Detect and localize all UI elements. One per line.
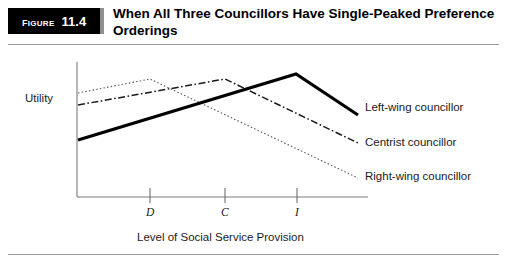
x-tick-label-i: I	[295, 206, 299, 218]
x-axis-label: Level of Social Service Provision	[137, 231, 304, 243]
y-axis-label: Utility	[25, 92, 53, 104]
chart-plot-area: Utility Level of Social Service Provisio…	[0, 0, 507, 265]
legend-label-right-wing: Right-wing councillor	[365, 170, 471, 182]
series-left-wing-councillor	[78, 74, 358, 140]
footer-divider	[8, 254, 499, 255]
figure-container: Figure 11.4 When All Three Councillors H…	[0, 0, 507, 265]
x-tick-label-c: C	[221, 206, 229, 218]
x-tick-label-d: D	[146, 206, 154, 218]
legend-label-centrist: Centrist councillor	[365, 136, 456, 148]
chart-svg	[0, 0, 507, 265]
legend-label-left-wing: Left-wing councillor	[365, 101, 463, 113]
